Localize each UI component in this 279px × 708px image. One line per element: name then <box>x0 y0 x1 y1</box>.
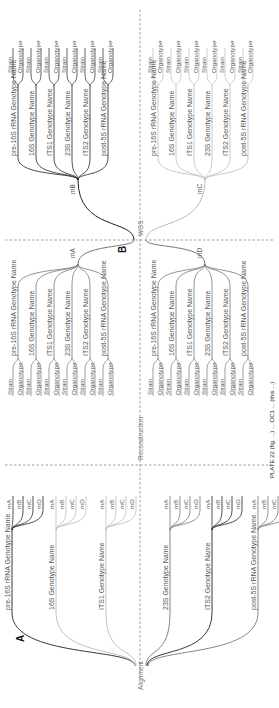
leaf-label: mC <box>182 499 189 509</box>
gene-label: pre-16S rRNA Genotype Name <box>10 259 18 356</box>
strain-label: Strain <box>78 378 85 395</box>
leaf-label: mA <box>162 499 169 509</box>
leaf-branch <box>171 74 176 86</box>
strain-label: Strain <box>236 56 243 73</box>
leaf-branch <box>258 510 279 530</box>
leaf-branch <box>31 74 36 86</box>
alignment-label: Alignment <box>137 661 145 690</box>
gene-branch <box>18 158 78 180</box>
gene-label: 16S Genotype Name <box>28 91 36 156</box>
leaf-label: mC <box>270 499 277 509</box>
strain-label: Strain <box>164 56 171 73</box>
leaf-label: mA <box>5 499 12 509</box>
organotype-label: Organotype <box>210 40 217 73</box>
organotype-label: Organotype <box>192 40 199 73</box>
leaf-branch <box>106 510 116 530</box>
leaf-label: mC <box>118 499 125 509</box>
gene-branch <box>12 613 135 666</box>
gene-label: post-5S rRNA Genotype Name <box>100 260 108 356</box>
leaf-branch <box>158 74 163 86</box>
leaf-branch <box>212 510 222 530</box>
gene-branch <box>148 613 258 666</box>
gene-label: ITS2 Genotype Name <box>82 88 90 156</box>
leaf-branch <box>170 510 200 530</box>
gene-label: ITS2 Genotype Name <box>82 288 90 356</box>
gene-label: 16S Genotype Name <box>168 291 176 356</box>
leaf-branch <box>108 74 113 86</box>
organotype-label: Organotype <box>52 362 59 395</box>
leaf-label: mD <box>192 499 199 509</box>
diagram-stage: AAlignmentReconstructionpre-16S rRNA Gen… <box>0 0 279 708</box>
gene-label: 16S Genotype Name <box>28 291 36 356</box>
organotype-label: Organotype <box>16 362 23 395</box>
strain-label: Strain <box>24 378 31 395</box>
leaf-branch <box>56 510 66 530</box>
leaf-label: mD <box>35 499 42 509</box>
leaf-branch <box>56 510 86 530</box>
leaf-branch <box>18 74 23 86</box>
strain-label: Strain <box>60 56 67 73</box>
wgs-label: WGS <box>137 220 144 236</box>
gene-label: ITS1 Genotype Name <box>46 288 54 356</box>
leaf-branch <box>49 74 54 86</box>
reconstruction-label: Reconstruction <box>137 416 144 460</box>
gene-branch <box>147 613 212 666</box>
subtree-node-label: mC <box>196 184 203 194</box>
leaf-label: mB <box>260 500 267 509</box>
leaf-branch <box>170 510 180 530</box>
gene-branch <box>78 158 90 180</box>
leaf-label: mA <box>250 499 257 509</box>
panel-b-label: B <box>117 246 128 253</box>
strain-label: Strain <box>24 56 31 73</box>
organotype-label: Organotype <box>34 40 41 73</box>
leaf-label: mB <box>58 500 65 509</box>
gene-label: post-5S rRNA Genotype Name <box>250 514 258 610</box>
organotype-label: Organotype <box>210 362 217 395</box>
strain-label: Strain <box>146 378 153 395</box>
organotype-label: Organotype <box>246 40 253 73</box>
leaf-label: mD <box>78 499 85 509</box>
gene-branch <box>18 264 78 286</box>
subtree-node-label: mA <box>69 248 76 258</box>
leaf-branch <box>36 74 41 86</box>
subtree-node-label: mD <box>196 248 203 258</box>
organotype-label: Organotype <box>70 40 77 73</box>
tree-diagram: AAlignmentReconstructionpre-16S rRNA Gen… <box>0 0 279 708</box>
organotype-label: Organotype <box>192 362 199 395</box>
leaf-branch <box>194 74 199 86</box>
organotype-label: Organotype <box>88 362 95 395</box>
strain-label: Strain <box>200 56 207 73</box>
gene-label: pre-16S rRNA Genotype Name <box>150 259 158 356</box>
leaf-label: mD <box>128 499 135 509</box>
gene-label: post-5S rRNA Genotype Name <box>100 60 108 156</box>
strain-label: Strain <box>96 378 103 395</box>
leaf-label: mB <box>108 500 115 509</box>
gene-branch <box>78 158 108 180</box>
gene-label: post-5S rRNA Genotype Name <box>240 60 248 156</box>
strain-label: Strain <box>96 56 103 73</box>
leaf-label: mC <box>68 499 75 509</box>
gene-label: 23S Genotype Name <box>64 91 72 156</box>
strain-label: Strain <box>182 56 189 73</box>
organotype-label: Organotype <box>70 362 77 395</box>
gene-label: ITS2 Genotype Name <box>222 88 230 156</box>
organotype-label: Organotype <box>88 40 95 73</box>
leaf-label: mC <box>25 499 32 509</box>
strain-label: Strain <box>78 56 85 73</box>
leaf-label: mA <box>48 499 55 509</box>
organotype-label: Organotype <box>156 362 163 395</box>
leaf-branch <box>207 74 212 86</box>
organotype-label: Organotype <box>228 362 235 395</box>
strain-label: Strain <box>218 378 225 395</box>
leaf-branch <box>90 74 95 86</box>
strain-label: Strain <box>146 56 153 73</box>
gene-label: ITS2 Genotype Name <box>222 288 230 356</box>
leaf-label: mB <box>15 500 22 509</box>
strain-label: Strain <box>42 378 49 395</box>
gene-label: 23S Genotype Name <box>162 545 170 610</box>
leaf-branch <box>176 74 181 86</box>
leaf-label: mB <box>214 500 221 509</box>
leaf-branch <box>67 74 72 86</box>
gene-label: ITS1 Genotype Name <box>46 88 54 156</box>
gene-label: 23S Genotype Name <box>204 291 212 356</box>
